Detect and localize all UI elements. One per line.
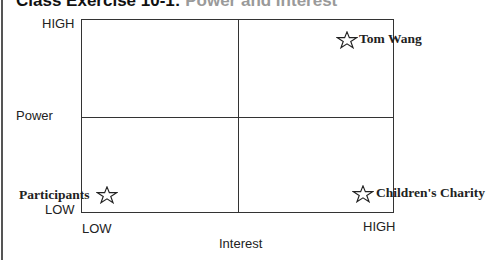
y-axis-low-label: LOW — [45, 202, 75, 217]
stakeholder-childrens-charity: Children's Charity — [376, 185, 485, 201]
slide-title: Class Exercise 10-1: Power and Interest — [16, 0, 337, 11]
title-exercise: Class Exercise 10-1: — [16, 0, 180, 10]
x-axis-low-label: LOW — [82, 221, 112, 236]
x-axis-label: Interest — [219, 236, 262, 251]
star-icon — [96, 186, 118, 204]
stakeholder-tom-wang: Tom Wang — [359, 31, 422, 47]
stakeholder-participants: Participants — [19, 187, 90, 203]
x-axis-high-label: HIGH — [363, 219, 396, 234]
grid-vertical-divider — [238, 20, 239, 212]
star-icon — [336, 31, 358, 49]
y-axis-high-label: HIGH — [42, 16, 75, 31]
title-topic: Power and Interest — [185, 0, 337, 10]
left-edge-rule — [1, 0, 3, 260]
grid-horizontal-divider — [82, 117, 393, 118]
y-axis-label: Power — [16, 108, 53, 123]
star-icon — [352, 185, 374, 203]
